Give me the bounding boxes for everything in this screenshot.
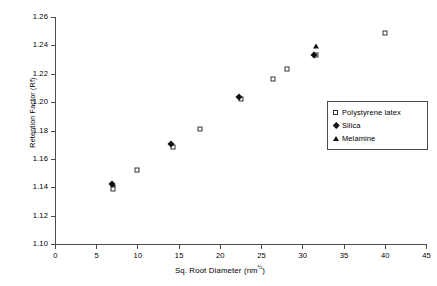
x-tick: 0: [55, 245, 56, 249]
legend-marker-filled-triangle-icon: [333, 136, 342, 141]
data-point-polystyrene-latex: [382, 30, 387, 35]
y-tick-label: 1.14: [33, 182, 48, 191]
legend-marker-open-square-icon: [333, 110, 342, 115]
data-point-polystyrene-latex: [284, 67, 289, 72]
y-tick: 1.12: [51, 216, 55, 217]
x-tick-label: 0: [53, 251, 57, 260]
legend-item[interactable]: Polystyrene latex: [333, 106, 423, 119]
data-point-polystyrene-latex: [110, 187, 115, 192]
x-tick-label: 15: [175, 251, 184, 260]
y-tick-label: 1.16: [33, 154, 48, 163]
legend-item-label: Polystyrene latex: [342, 108, 401, 117]
x-tick: 30: [302, 245, 303, 249]
y-tick: 1.24: [51, 45, 55, 46]
data-point-melamine: [313, 44, 319, 49]
data-point-polystyrene-latex: [135, 168, 140, 173]
legend-item[interactable]: Silica: [333, 119, 423, 132]
x-tick: 35: [344, 245, 345, 249]
y-tick: 1.16: [51, 159, 55, 160]
y-tick-label: 1.20: [33, 97, 48, 106]
chart-legend: Polystyrene latexSilicaMelamine: [327, 101, 428, 150]
legend-item[interactable]: Melamine: [333, 132, 423, 145]
x-axis-title-suffix: ): [262, 266, 265, 275]
x-tick-label: 30: [299, 251, 308, 260]
x-tick-label: 20: [216, 251, 225, 260]
y-tick-label: 1.18: [33, 126, 48, 135]
x-tick: 45: [426, 245, 427, 249]
y-tick-label: 1.12: [33, 211, 48, 220]
y-tick-label: 1.10: [33, 239, 48, 248]
x-tick: 15: [179, 245, 180, 249]
data-point-polystyrene-latex: [198, 127, 203, 132]
y-tick-label: 1.26: [33, 12, 48, 21]
x-tick-label: 5: [95, 251, 99, 260]
legend-item-label: Melamine: [342, 134, 375, 143]
x-tick-label: 40: [381, 251, 390, 260]
y-tick-label: 1.24: [33, 40, 48, 49]
legend-item-label: Silica: [342, 121, 361, 130]
scatter-chart: Retention Factor (Rf) Sq. Root Diameter …: [0, 0, 437, 286]
y-tick: 1.22: [51, 74, 55, 75]
x-axis-title: Sq. Root Diameter (nm½): [55, 266, 385, 275]
y-axis-line: [55, 17, 56, 245]
data-point-polystyrene-latex: [270, 77, 275, 82]
x-tick: 25: [261, 245, 262, 249]
y-tick: 1.20: [51, 102, 55, 103]
x-tick-label: 35: [340, 251, 349, 260]
legend-marker-filled-diamond-icon: [333, 123, 342, 128]
x-tick-label: 45: [422, 251, 431, 260]
x-axis-title-text: Sq. Root Diameter (nm: [175, 266, 258, 275]
data-point-melamine: [110, 181, 116, 186]
y-tick-label: 1.22: [33, 69, 48, 78]
x-axis-line: [55, 244, 427, 245]
y-tick: 1.26: [51, 17, 55, 18]
y-tick: 1.18: [51, 131, 55, 132]
y-tick: 1.14: [51, 187, 55, 188]
y-axis-title: Retention Factor (Rf): [28, 33, 37, 193]
x-tick: 5: [96, 245, 97, 249]
x-tick-label: 10: [134, 251, 143, 260]
x-tick: 40: [385, 245, 386, 249]
x-tick: 20: [220, 245, 221, 249]
x-tick-label: 25: [257, 251, 266, 260]
x-tick: 10: [137, 245, 138, 249]
